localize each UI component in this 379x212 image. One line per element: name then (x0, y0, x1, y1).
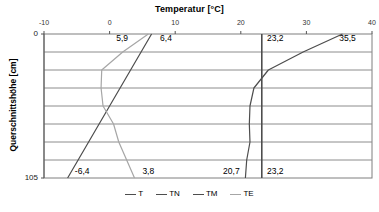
plot-area (0, 0, 379, 212)
legend-line-icon (156, 194, 167, 195)
data-label-lbl-tn-bottom: -6,4 (75, 166, 90, 176)
legend-label: TN (169, 190, 180, 198)
legend-item-te[interactable]: TE (230, 190, 253, 198)
legend-label: TE (243, 190, 253, 198)
data-label-lbl-t-bottom: 23,2 (267, 166, 284, 176)
legend-line-icon (125, 194, 136, 195)
data-label-lbl-tn-top: 6,4 (160, 33, 172, 43)
legend-item-tn[interactable]: TN (156, 190, 180, 198)
legend-line-icon (193, 194, 204, 195)
legend-item-t[interactable]: T (125, 190, 143, 198)
data-label-lbl-te-bottom: 3,8 (142, 166, 154, 176)
data-label-lbl-tm-bottom: 20,7 (223, 166, 240, 176)
legend-item-tm[interactable]: TM (193, 190, 218, 198)
legend-label: TM (206, 190, 218, 198)
legend-label: T (138, 190, 143, 198)
temperature-profile-chart: Temperatur [°C] Querschnittshöhe [cm] -1… (0, 0, 379, 212)
data-label-lbl-te-top: 5,9 (116, 33, 128, 43)
chart-legend: TTNTMTE (0, 190, 379, 198)
data-label-lbl-tm-top: 35,5 (339, 33, 356, 43)
legend-line-icon (230, 194, 241, 195)
data-label-lbl-t-top: 23,2 (267, 33, 284, 43)
